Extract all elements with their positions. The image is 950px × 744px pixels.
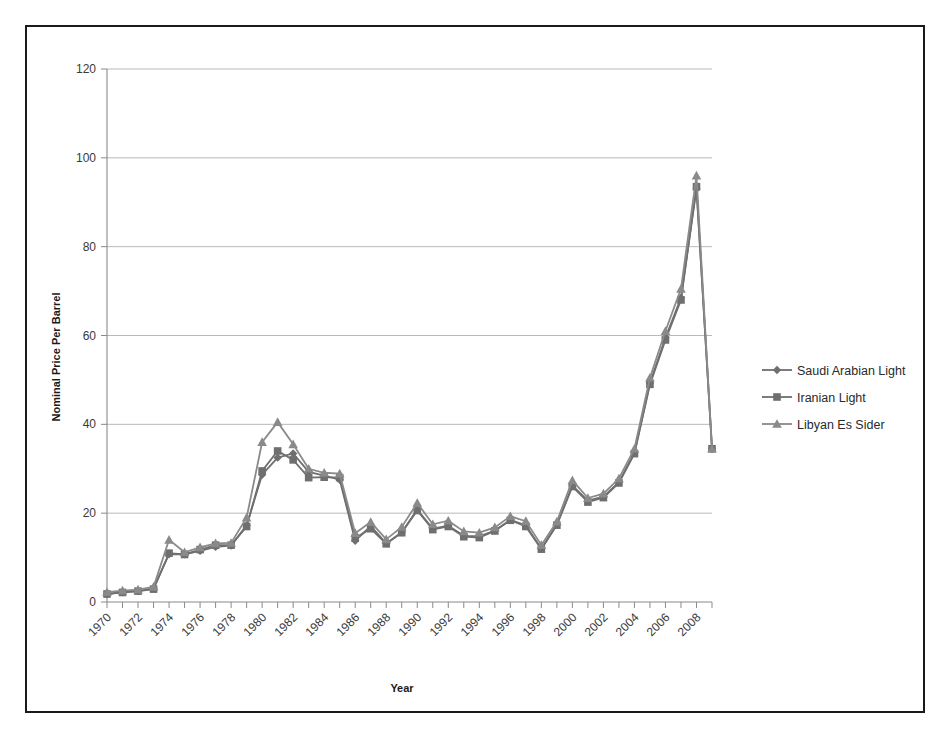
data-point-marker (568, 475, 578, 484)
data-point-marker (164, 535, 174, 544)
data-series (102, 171, 717, 598)
data-point-marker (289, 456, 297, 464)
x-tick-label: 1970 (85, 610, 114, 639)
data-point-marker (773, 366, 781, 374)
legend: Saudi Arabian LightIranian LightLibyan E… (762, 364, 906, 432)
data-point-marker (243, 523, 251, 531)
x-tick-label: 1974 (147, 610, 176, 639)
x-tick-label: 1996 (489, 610, 518, 639)
data-point-marker (366, 517, 376, 526)
legend-label-triangle: Libyan Es Sider (797, 418, 885, 432)
x-tick-label: 2006 (644, 610, 673, 639)
y-axis-title: Nominal Price Per Barrel (50, 292, 62, 421)
x-tick-label: 1976 (178, 610, 207, 639)
y-tick-label: 40 (83, 417, 97, 431)
data-point-marker (258, 467, 266, 475)
x-tick-label: 1992 (427, 610, 456, 639)
data-point-marker (676, 284, 686, 293)
x-tick-label: 1994 (458, 610, 487, 639)
series-line (107, 187, 712, 594)
x-tick-label: 1972 (116, 610, 145, 639)
data-point-marker (412, 498, 422, 507)
x-tick-label: 2002 (582, 610, 611, 639)
chart-canvas: 020406080100120 197019721974197619781980… (27, 27, 927, 715)
data-point-marker (692, 171, 702, 180)
series-line (107, 176, 712, 593)
y-tick-label: 100 (76, 151, 96, 165)
line-chart: 020406080100120 197019721974197619781980… (27, 27, 927, 715)
x-tick-label: 2008 (675, 610, 704, 639)
figure-frame: 020406080100120 197019721974197619781980… (25, 25, 925, 713)
y-tick-label: 60 (83, 329, 97, 343)
data-point-marker (773, 393, 781, 401)
x-tick-label: 1986 (334, 610, 363, 639)
x-tick-label: 1984 (303, 610, 332, 639)
data-point-marker (305, 474, 313, 482)
series-iranian-light (103, 183, 716, 598)
y-tick-label: 80 (83, 240, 97, 254)
gridlines (107, 69, 712, 513)
x-tick-labels: 1970197219741976197819801982198419861988… (85, 610, 703, 639)
legend-label-square: Iranian Light (797, 391, 866, 405)
y-tick-label: 0 (89, 595, 96, 609)
x-tick-label: 1982 (271, 610, 300, 639)
data-point-marker (630, 444, 640, 453)
x-axis-title: Year (390, 682, 414, 694)
data-point-marker (274, 447, 282, 455)
series-line (107, 189, 712, 594)
x-tick-label: 1978 (209, 610, 238, 639)
y-tick-labels: 020406080100120 (76, 62, 96, 609)
x-tick-label: 2004 (613, 610, 642, 639)
series-libyan-es-sider (102, 171, 717, 596)
x-tick-label: 1980 (240, 610, 269, 639)
x-tick-label: 2000 (551, 610, 580, 639)
x-tick-label: 1988 (365, 610, 394, 639)
y-tick-label: 20 (83, 506, 97, 520)
data-point-marker (443, 516, 453, 525)
x-tick-label: 1990 (396, 610, 425, 639)
x-tick-label: 1998 (520, 610, 549, 639)
x-tickmarks (107, 602, 712, 608)
y-tick-label: 120 (76, 62, 96, 76)
data-point-marker (273, 417, 283, 426)
legend-label-diamond: Saudi Arabian Light (797, 364, 906, 378)
